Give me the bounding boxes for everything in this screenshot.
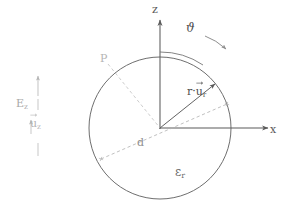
radius-unit-subscript: r bbox=[203, 90, 206, 99]
physics-figure: z x ϑ r·ur d P εr Ez uz bbox=[0, 0, 286, 223]
field-symbol: E bbox=[16, 97, 24, 110]
permittivity-label: εr bbox=[175, 166, 185, 180]
unit-vector-z-subscript: z bbox=[37, 122, 41, 131]
permittivity-subscript: r bbox=[181, 171, 185, 180]
unit-vector-z-letter: u bbox=[30, 117, 37, 130]
unit-vector-letter: u bbox=[196, 85, 203, 98]
field-subscript: z bbox=[24, 102, 28, 111]
angle-arc bbox=[160, 52, 203, 65]
angle-arrow bbox=[205, 36, 226, 49]
angle-theta-label: ϑ bbox=[186, 22, 195, 34]
figure-canvas bbox=[0, 0, 286, 223]
dashed-point-line bbox=[108, 64, 160, 128]
field-label: Ez bbox=[16, 98, 28, 110]
point-p-label: P bbox=[100, 53, 107, 64]
diameter-label: d bbox=[137, 137, 144, 148]
unit-vector-z-label: uz bbox=[30, 118, 41, 130]
unit-vector-z: u bbox=[30, 118, 37, 129]
z-axis-label: z bbox=[152, 4, 158, 15]
radius-unit-vector: u bbox=[196, 86, 203, 97]
radius-vector-label: r·ur bbox=[187, 86, 206, 98]
dashed-diameter bbox=[101, 104, 227, 159]
x-axis-label: x bbox=[270, 124, 276, 135]
